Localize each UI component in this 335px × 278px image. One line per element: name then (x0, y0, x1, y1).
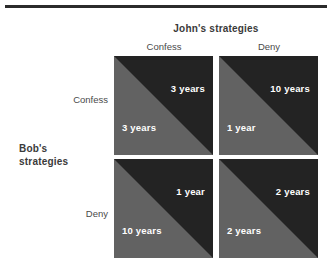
row-payoff-value: 1 year (227, 122, 256, 133)
row-payoff-value: 10 years (122, 225, 162, 236)
matrix-cell-confess-deny: 10 years 1 year (219, 56, 318, 155)
payoff-matrix-figure: John's strategies Confess Deny Bob's str… (0, 0, 335, 278)
row-player-heading-line1: Bob's (19, 143, 68, 156)
column-payoff-value: 10 years (270, 83, 310, 94)
column-payoff-value: 3 years (171, 83, 205, 94)
row-payoff-value: 2 years (227, 225, 261, 236)
matrix-cell-deny-confess: 1 year 10 years (114, 159, 213, 258)
column-payoff-value: 1 year (176, 186, 205, 197)
row-player-heading: Bob's strategies (19, 143, 68, 168)
column-header-confess: Confess (114, 41, 214, 52)
column-player-heading: John's strategies (114, 23, 318, 34)
matrix-cell-deny-deny: 2 years 2 years (219, 159, 318, 258)
row-payoff-value: 3 years (122, 122, 156, 133)
column-payoff-value: 2 years (276, 186, 310, 197)
top-divider-rule (5, 5, 327, 8)
row-header-deny: Deny (22, 208, 108, 219)
column-header-deny: Deny (219, 41, 319, 52)
matrix-cell-confess-confess: 3 years 3 years (114, 56, 213, 155)
row-header-confess: Confess (22, 94, 108, 105)
row-player-heading-line2: strategies (19, 156, 68, 169)
